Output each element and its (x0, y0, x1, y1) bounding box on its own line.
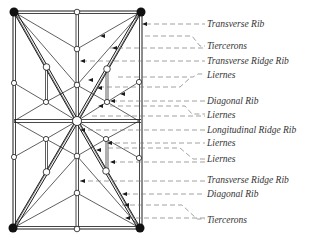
label-transverse-ridge-rib-top: Transverse Ridge Rib (207, 56, 289, 66)
boss-wall-left-lower (11, 154, 16, 159)
boss-wall-right-upper (136, 79, 141, 84)
boss-top-left (10, 8, 19, 17)
boss-diag-lower-right (103, 168, 110, 175)
boss-lierne-lower-left (43, 136, 48, 141)
boss-ridge-lower-1 (74, 153, 80, 159)
label-diagonal-rib-bottom: Diagonal Rib (207, 189, 258, 199)
boss-bottom-right (136, 224, 145, 233)
boss-center (73, 117, 82, 126)
arrowheads (80, 22, 147, 220)
label-liernes-1: Liernes (207, 70, 236, 80)
label-tiercerons-top: Tiercerons (207, 41, 247, 51)
label-transverse-rib: Transverse Rib (207, 19, 264, 29)
boss-lierne-upper-right (104, 99, 109, 104)
boss-ridge-upper-2 (74, 82, 80, 88)
boss-diag-upper-right (104, 66, 111, 73)
label-transverse-ridge-rib-bottom: Transverse Ridge Rib (207, 175, 289, 185)
boss-bottom-left (9, 224, 18, 233)
boss-top-mid (74, 9, 80, 15)
label-liernes-3: Liernes (207, 138, 236, 148)
label-longitudinal-ridge-rib: Longitudinal Ridge Rib (207, 125, 296, 135)
label-liernes-4: Liernes (207, 154, 236, 164)
boss-diag-upper-left (43, 64, 50, 71)
boss-ridge-lower-2 (74, 190, 80, 196)
vault-rib-diagram (0, 0, 310, 241)
label-tiercerons-bottom: Tiercerons (207, 215, 247, 225)
boss-lierne-upper-left (43, 99, 48, 104)
boss-ridge-upper-1 (74, 46, 80, 52)
label-diagonal-rib-top: Diagonal Rib (207, 96, 258, 106)
boss-diag-lower-left (43, 169, 50, 176)
boss-wall-left-upper (11, 80, 16, 85)
label-liernes-2: Liernes (207, 110, 236, 120)
boss-bottom-mid (74, 226, 80, 232)
boss-top-right (137, 8, 146, 17)
boss-lierne-lower-right (103, 136, 108, 141)
boss-wall-right-lower (136, 155, 141, 160)
